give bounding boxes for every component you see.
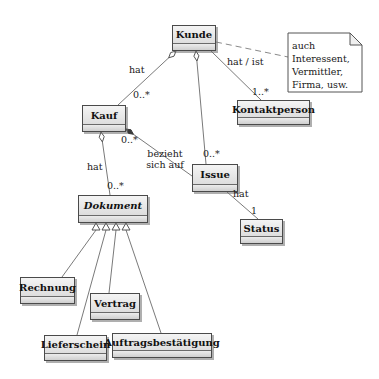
label-kauf-dokument: hat (87, 161, 103, 172)
class-lieferschein: Lieferschein (44, 335, 107, 361)
class-kontaktperson-name: Kontaktperson (238, 101, 309, 118)
generalization-arrow-3 (112, 223, 120, 230)
note-text: auch Interessent, Vermittler, Firma, usw… (292, 39, 356, 91)
class-lieferschein-name: Lieferschein (45, 336, 106, 354)
class-issue: Issue (192, 164, 238, 192)
aggregation-diamond-kunde-kauf (169, 51, 176, 58)
class-lieferschein-compartment (45, 354, 106, 360)
class-kauf-compartment (83, 125, 125, 131)
class-issue-compartment (193, 185, 237, 191)
note-line-2: Interessent, (292, 52, 356, 65)
class-status: Status (240, 219, 283, 244)
generalization-arrow-2 (102, 223, 110, 230)
aggregation-diamond-kunde-issue (194, 51, 199, 61)
class-status-compartment (241, 237, 282, 243)
edge-vertrag-dokument (109, 230, 116, 293)
generalization-arrow-1 (92, 223, 100, 230)
class-rechnung-compartment (21, 297, 74, 303)
multiplicity-issue-status: 1 (251, 205, 257, 216)
multiplicity-kunde-kontaktperson: 1..* (252, 86, 269, 97)
class-vertrag: Vertrag (90, 293, 140, 320)
class-auftragsbestaetigung: Auftragsbestätigung (112, 333, 212, 358)
class-kontaktperson-compartment (238, 118, 309, 124)
multiplicity-kunde-kauf: 0..* (133, 89, 150, 100)
note-line-4: Firma, usw. (292, 78, 356, 91)
label-kauf-issue: bezieht sich auf (142, 149, 188, 170)
class-kunde: Kunde (172, 25, 216, 51)
aggregation-diamond-kauf-dokument (99, 132, 104, 142)
class-kauf-name: Kauf (83, 106, 125, 125)
label-kunde-kauf: hat (129, 64, 145, 75)
class-kontaktperson: Kontaktperson (237, 100, 310, 125)
note-line-3: Vermittler, (292, 65, 356, 78)
class-auftragsbestaetigung-compartment (113, 351, 211, 357)
label-kunde-kontaktperson: hat / ist (227, 56, 264, 67)
class-status-name: Status (241, 220, 282, 237)
multiplicity-kauf-dokument: 0..* (107, 180, 124, 191)
note-line-1: auch (292, 39, 356, 52)
uml-class-diagram: Kunde Kontaktperson Kauf Issue Status Do… (0, 0, 379, 379)
class-dokument-name: Dokument (79, 196, 147, 216)
class-dokument-compartment (79, 216, 147, 222)
class-dokument: Dokument (78, 195, 148, 223)
class-kunde-compartment (173, 44, 215, 50)
edge-kunde-note-dashed (216, 42, 288, 57)
class-vertrag-name: Vertrag (91, 294, 139, 313)
class-kunde-name: Kunde (173, 26, 215, 44)
class-rechnung: Rechnung (20, 277, 75, 304)
edge-rechnung-dokument (62, 230, 96, 277)
label-issue-status: hat (233, 188, 249, 199)
class-kauf: Kauf (82, 105, 126, 132)
class-issue-name: Issue (193, 165, 237, 185)
class-auftragsbestaetigung-name: Auftragsbestätigung (113, 334, 211, 351)
class-vertrag-compartment (91, 313, 139, 319)
class-rechnung-name: Rechnung (21, 278, 74, 297)
generalization-arrow-4 (122, 223, 130, 230)
multiplicity-kunde-issue: 0..* (203, 148, 220, 159)
multiplicity-kauf-issue: 0..* (121, 134, 138, 145)
